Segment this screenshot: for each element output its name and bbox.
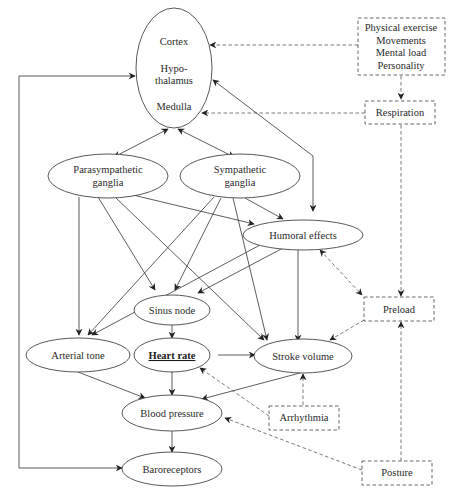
node-heart-rate: Heart rate	[134, 338, 210, 372]
node-humoral-effects: Humoral effects	[243, 220, 363, 250]
respiration-label: Respiration	[376, 107, 425, 118]
edge-symp-humoral	[245, 198, 283, 219]
humoral-label: Humoral effects	[269, 230, 337, 241]
symp-label-2: ganglia	[225, 177, 256, 188]
cardiovascular-regulation-diagram: Cortex Hypo- thalamus Medulla Parasympat…	[0, 0, 462, 504]
node-brain: Cortex Hypo- thalamus Medulla	[136, 8, 212, 128]
lifestyle-line-3: Mental load	[376, 47, 427, 58]
baroreceptors-label: Baroreceptors	[143, 464, 202, 475]
lifestyle-line-4: Personality	[377, 60, 425, 71]
lifestyle-line-2: Movements	[376, 35, 426, 46]
node-blood-pressure: Blood pressure	[122, 395, 222, 431]
brain-label-hypo: Hypo-	[161, 63, 188, 74]
edge-brain-sympathetic	[178, 129, 234, 157]
edge-arterial-bp	[78, 372, 145, 398]
node-arterial-tone: Arterial tone	[26, 338, 130, 372]
brain-label-thalamus: thalamus	[155, 75, 193, 86]
factor-lifestyle: Physical exercise Movements Mental load …	[358, 18, 445, 75]
edge-stroke-bp	[202, 373, 300, 399]
posture-label: Posture	[381, 467, 413, 478]
brain-label-medulla: Medulla	[157, 101, 192, 112]
factor-respiration: Respiration	[365, 101, 435, 124]
edge-para-sinus	[98, 197, 155, 290]
stroke-volume-label: Stroke volume	[272, 351, 334, 362]
node-sympathetic-ganglia: Sympathetic ganglia	[180, 154, 300, 198]
node-baroreceptors: Baroreceptors	[122, 452, 222, 486]
sinus-label: Sinus node	[149, 305, 196, 316]
para-label-2: ganglia	[93, 177, 124, 188]
factor-arrhythmia: Arrhythmia	[269, 406, 339, 430]
para-label-1: Parasympathetic	[73, 164, 143, 175]
factor-preload: Preload	[364, 297, 434, 321]
factor-posture: Posture	[362, 461, 432, 485]
arrhythmia-label: Arrhythmia	[280, 412, 329, 423]
arterial-label: Arterial tone	[51, 350, 105, 361]
brain-label-cortex: Cortex	[160, 36, 189, 47]
preload-label: Preload	[383, 304, 416, 315]
blood-pressure-label: Blood pressure	[140, 408, 204, 419]
heart-rate-label: Heart rate	[149, 350, 196, 361]
edge-humoral-preload	[320, 250, 362, 295]
node-parasympathetic-ganglia: Parasympathetic ganglia	[48, 154, 168, 198]
node-sinus-node: Sinus node	[134, 295, 210, 325]
node-stroke-volume: Stroke volume	[254, 339, 352, 373]
lifestyle-line-1: Physical exercise	[365, 22, 438, 33]
edge-symp-stroke	[233, 198, 267, 340]
edge-preload-stroke	[330, 320, 364, 340]
edge-humoral-sinus	[198, 248, 283, 293]
edge-brain-parasympathetic	[114, 129, 168, 157]
symp-label-1: Sympathetic	[214, 164, 267, 175]
edge-baroreceptors-brain	[19, 76, 135, 468]
